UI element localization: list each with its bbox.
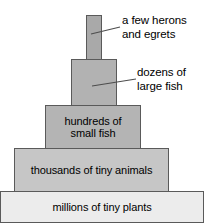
annotation-herons: a few herons and egrets xyxy=(122,14,187,41)
tier-label-tiny-animals: thousands of tiny animals xyxy=(31,164,153,177)
pyramid-tier-herons xyxy=(86,15,102,60)
pyramid-tier-small-fish: hundreds of small fish xyxy=(45,105,141,149)
pyramid-tier-tiny-animals: thousands of tiny animals xyxy=(14,148,169,192)
annotation-large-fish: dozens of large fish xyxy=(137,66,186,93)
pyramid-tier-large-fish xyxy=(71,59,117,106)
energy-pyramid-diagram: millions of tiny plants thousands of tin… xyxy=(0,0,207,223)
tier-label-tiny-plants: millions of tiny plants xyxy=(52,201,151,214)
tier-label-small-fish: hundreds of small fish xyxy=(65,115,122,140)
pyramid-tier-tiny-plants: millions of tiny plants xyxy=(0,191,204,223)
